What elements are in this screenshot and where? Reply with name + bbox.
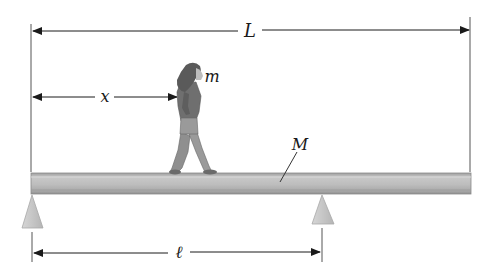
guide-lines [31,17,470,262]
position-x-dimension: x [33,87,177,106]
beam [31,173,471,194]
support-distance-dimension: ℓ [34,242,320,262]
right-support [312,195,334,224]
label-m: m [204,67,219,86]
length-L-dimension: L [33,20,469,41]
beam-diagram: L x M ℓ [0,0,489,276]
label-L: L [243,20,256,41]
left-support [22,195,43,228]
label-ell: ℓ [175,242,182,262]
label-x: x [100,87,109,106]
label-M: M [291,135,309,154]
